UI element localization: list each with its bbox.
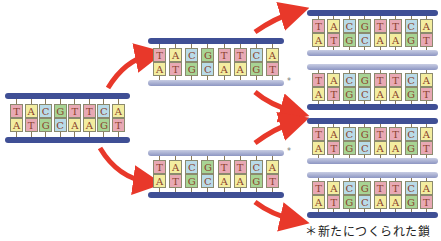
- base-G: G: [405, 141, 418, 155]
- base-pairs: TAATCGGCTATACGAT: [312, 124, 433, 158]
- base-C: C: [343, 181, 356, 195]
- base-A: A: [153, 62, 166, 76]
- base-G: G: [405, 87, 418, 101]
- new-strand-mark: *: [287, 77, 291, 86]
- duplex-gen1-b: TAATCGGCTATACGAT: [148, 150, 284, 198]
- base-pair: AT: [420, 16, 433, 50]
- base-T: T: [218, 48, 231, 62]
- old-strand-bottom: [148, 192, 284, 198]
- base-pairs: TAATCGGCTATACGAT: [312, 70, 433, 104]
- base-pair: TA: [312, 16, 325, 50]
- base-T: T: [420, 141, 433, 155]
- base-pair: TA: [153, 156, 166, 192]
- duplex-gen2-1: TAATCGGCTATACGAT: [307, 10, 438, 56]
- base-pairs: TAATCGGCTATACGAT: [10, 99, 125, 137]
- base-C: C: [201, 62, 214, 76]
- base-A: A: [327, 73, 340, 87]
- base-pair: TA: [312, 124, 325, 158]
- base-G: G: [358, 73, 371, 87]
- base-T: T: [25, 118, 38, 132]
- base-T: T: [153, 48, 166, 62]
- base-pair: AT: [112, 99, 125, 137]
- base-T: T: [374, 127, 387, 141]
- base-pair: TA: [218, 44, 231, 80]
- base-A: A: [374, 195, 387, 209]
- base-T: T: [327, 87, 340, 101]
- base-pair: TA: [153, 44, 166, 80]
- base-A: A: [327, 19, 340, 33]
- base-G: G: [97, 118, 110, 132]
- base-A: A: [420, 73, 433, 87]
- base-C: C: [405, 127, 418, 141]
- base-pair: CG: [343, 16, 356, 50]
- base-pair: GC: [201, 156, 214, 192]
- base-T: T: [420, 195, 433, 209]
- base-C: C: [405, 73, 418, 87]
- base-pair: TA: [374, 16, 387, 50]
- base-T: T: [312, 73, 325, 87]
- base-pairs: TAATCGGCTATACGAT: [153, 156, 279, 192]
- base-A: A: [374, 33, 387, 47]
- old-strand-bottom: [307, 212, 438, 218]
- base-C: C: [343, 19, 356, 33]
- base-G: G: [343, 195, 356, 209]
- base-pair: CG: [343, 124, 356, 158]
- base-A: A: [312, 87, 325, 101]
- base-G: G: [185, 62, 198, 76]
- base-pair: TA: [389, 70, 402, 104]
- base-C: C: [54, 118, 67, 132]
- base-G: G: [201, 48, 214, 62]
- base-pair: GC: [358, 178, 371, 212]
- base-G: G: [405, 33, 418, 47]
- base-pair: AT: [169, 44, 182, 80]
- base-C: C: [185, 48, 198, 62]
- base-T: T: [312, 19, 325, 33]
- base-T: T: [234, 48, 247, 62]
- base-A: A: [234, 174, 247, 188]
- duplex-parent: TAATCGGCTATACGAT: [5, 93, 130, 143]
- arrow-gen1b-to-3: [255, 122, 295, 143]
- base-T: T: [312, 181, 325, 195]
- base-C: C: [185, 160, 198, 174]
- base-G: G: [358, 127, 371, 141]
- base-A: A: [218, 174, 231, 188]
- base-A: A: [389, 141, 402, 155]
- base-pair: AT: [169, 156, 182, 192]
- base-T: T: [389, 127, 402, 141]
- base-A: A: [266, 160, 279, 174]
- base-pair: CG: [405, 124, 418, 158]
- caption-new-strand: ＊新たにつくられた鎖: [305, 222, 430, 239]
- base-pair: CG: [185, 44, 198, 80]
- base-pair: AT: [327, 178, 340, 212]
- base-pair: AT: [420, 124, 433, 158]
- base-T: T: [389, 181, 402, 195]
- base-G: G: [343, 87, 356, 101]
- base-T: T: [374, 73, 387, 87]
- base-pair: CG: [405, 70, 418, 104]
- base-T: T: [10, 104, 23, 118]
- base-A: A: [312, 195, 325, 209]
- base-C: C: [358, 141, 371, 155]
- base-C: C: [250, 160, 263, 174]
- new-strand-bottom: [307, 158, 438, 164]
- base-pair: GC: [358, 16, 371, 50]
- base-A: A: [266, 48, 279, 62]
- base-A: A: [169, 160, 182, 174]
- base-T: T: [218, 160, 231, 174]
- base-T: T: [420, 33, 433, 47]
- base-pair: AT: [266, 156, 279, 192]
- base-A: A: [112, 104, 125, 118]
- base-A: A: [389, 87, 402, 101]
- base-A: A: [389, 195, 402, 209]
- base-C: C: [358, 33, 371, 47]
- base-A: A: [327, 181, 340, 195]
- base-A: A: [327, 127, 340, 141]
- base-pair: AT: [420, 178, 433, 212]
- base-pair: CG: [405, 178, 418, 212]
- base-pair: TA: [312, 178, 325, 212]
- base-T: T: [153, 160, 166, 174]
- base-pair: CG: [39, 99, 52, 137]
- arrow-gen1a-to-1: [255, 12, 295, 32]
- base-pair: TA: [374, 70, 387, 104]
- base-G: G: [54, 104, 67, 118]
